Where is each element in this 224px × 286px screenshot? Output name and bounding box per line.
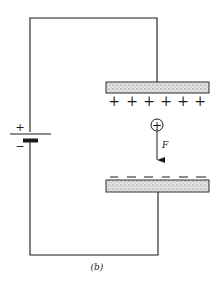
positive-charge: + (108, 93, 120, 109)
force-label: F (161, 140, 169, 150)
upper-wire (30, 18, 157, 132)
positive-charge: + (160, 93, 172, 109)
lower-wire (30, 141, 158, 255)
positive-charge: + (177, 93, 189, 109)
force-vector: F (157, 131, 169, 160)
upper-plate-charges: + + + + + + (108, 93, 206, 109)
test-charge-sign: + (152, 119, 162, 133)
positive-charge: + (126, 93, 138, 109)
positive-charge: + (194, 93, 206, 109)
circuit-wires (30, 18, 158, 255)
battery-negative-terminal (23, 139, 38, 143)
test-charge: + (151, 119, 163, 133)
circuit-diagram: + − + + + + + + + F (b) (0, 0, 224, 286)
upper-plate (106, 82, 209, 93)
battery-plus-label: + (15, 121, 24, 134)
lower-plate (106, 180, 209, 192)
battery-minus-label: − (15, 140, 24, 153)
positive-charge: + (143, 93, 155, 109)
figure-caption: (b) (91, 262, 104, 272)
